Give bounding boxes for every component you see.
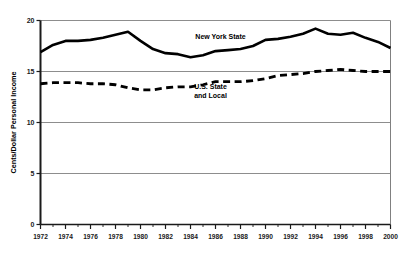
x-tick-label-1990: 1990 — [258, 233, 273, 240]
x-tick-label-1994: 1994 — [308, 233, 323, 240]
x-tick-label-1992: 1992 — [283, 233, 298, 240]
y-axis-title: Cents/Dollar Personal Income — [9, 72, 18, 174]
y-tick-label-15: 15 — [27, 68, 35, 75]
x-tick-label-1976: 1976 — [83, 233, 98, 240]
y-tick-label-10: 10 — [27, 119, 35, 126]
x-tick-label-1986: 1986 — [208, 233, 223, 240]
y-tick-label-0: 0 — [31, 221, 35, 228]
y-axis-title-text: Cents/Dollar Personal Income — [9, 72, 18, 174]
series-label-us-state-and-local-line1: U.S. State — [194, 83, 227, 90]
x-tick-label-1972: 1972 — [33, 233, 48, 240]
x-tick-label-1998: 1998 — [358, 233, 373, 240]
x-tick-label-1978: 1978 — [108, 233, 123, 240]
x-tick-label-1988: 1988 — [233, 233, 248, 240]
chart-container: 05101520 1972197419761978198019821984198… — [0, 0, 407, 263]
series-label-new-york-state: New York State — [195, 33, 245, 40]
y-tick-label-20: 20 — [27, 17, 35, 24]
x-tick-label-1974: 1974 — [58, 233, 73, 240]
x-tick-label-2000: 2000 — [383, 233, 398, 240]
x-tick-label-1980: 1980 — [133, 233, 148, 240]
x-tick-label-1982: 1982 — [158, 233, 173, 240]
line-chart: 05101520 1972197419761978198019821984198… — [0, 0, 407, 263]
x-tick-label-1984: 1984 — [183, 233, 198, 240]
series-label-us-state-and-local-line2: and Local — [194, 92, 227, 99]
y-tick-label-5: 5 — [31, 170, 35, 177]
x-axis-tick-labels: 1972197419761978198019821984198619881990… — [33, 233, 398, 240]
x-tick-label-1996: 1996 — [333, 233, 348, 240]
